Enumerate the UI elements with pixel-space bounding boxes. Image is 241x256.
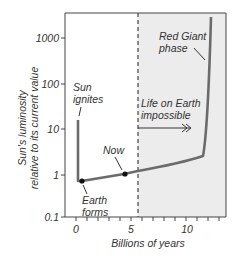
annotation-now: Now bbox=[103, 144, 125, 170]
svg-text:0: 0 bbox=[73, 223, 79, 235]
svg-text:Sun: Sun bbox=[73, 81, 92, 93]
svg-text:0.1: 0.1 bbox=[44, 211, 59, 223]
now-marker bbox=[122, 171, 127, 176]
annotation-earth-forms: Earth forms bbox=[82, 185, 109, 218]
earth-forms-marker bbox=[79, 178, 84, 183]
svg-text:1: 1 bbox=[53, 169, 59, 181]
svg-text:5: 5 bbox=[128, 223, 134, 235]
svg-text:ignites: ignites bbox=[73, 93, 104, 105]
svg-text:10: 10 bbox=[181, 223, 193, 235]
annotation-sun-ignites: Sun ignites bbox=[73, 81, 104, 116]
svg-text:relative to its current value: relative to its current value bbox=[28, 67, 40, 190]
svg-text:100: 100 bbox=[41, 78, 59, 90]
x-axis-label: Billions of years bbox=[111, 237, 185, 249]
svg-text:impossible: impossible bbox=[141, 109, 191, 121]
svg-text:10: 10 bbox=[47, 123, 59, 135]
svg-text:forms: forms bbox=[82, 206, 109, 218]
y-axis bbox=[61, 38, 65, 217]
luminosity-chart: 1000 100 10 1 0.1 0 5 10 Billions of yea… bbox=[0, 0, 241, 256]
svg-text:Sun's luminosity: Sun's luminosity bbox=[16, 89, 28, 165]
svg-text:Life on Earth: Life on Earth bbox=[141, 97, 201, 109]
svg-text:phase: phase bbox=[158, 42, 188, 54]
y-axis-label: Sun's luminosity relative to its current… bbox=[16, 67, 40, 190]
svg-text:Earth: Earth bbox=[82, 194, 107, 206]
svg-text:Red Giant: Red Giant bbox=[159, 30, 207, 42]
svg-text:Now: Now bbox=[103, 144, 125, 156]
svg-text:1000: 1000 bbox=[36, 32, 60, 44]
x-tick-labels: 0 5 10 bbox=[73, 223, 193, 235]
